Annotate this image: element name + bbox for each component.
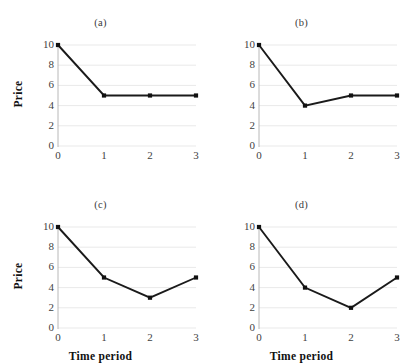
x-tick-label: 0 bbox=[46, 150, 70, 161]
data-point-marker bbox=[102, 93, 106, 97]
chart-svg bbox=[58, 45, 196, 146]
x-tick-label: 2 bbox=[339, 332, 363, 343]
data-point-marker bbox=[148, 93, 152, 97]
panel-title-d: (d) bbox=[201, 199, 402, 210]
plot-area-d bbox=[259, 227, 397, 328]
y-tick-label: 8 bbox=[32, 59, 54, 70]
data-point-marker bbox=[303, 286, 307, 290]
data-series-line bbox=[58, 45, 196, 96]
plot-area-a bbox=[58, 45, 196, 146]
data-series-line bbox=[58, 227, 196, 298]
y-tick-label: 2 bbox=[233, 302, 255, 313]
x-tick-label: 0 bbox=[46, 332, 70, 343]
chart-svg bbox=[259, 45, 397, 146]
y-axis-ticks-c: 0246810 bbox=[28, 227, 54, 328]
chart-svg bbox=[58, 227, 196, 328]
y-axis-ticks-a: 0246810 bbox=[28, 45, 54, 146]
y-axis-label-a: Price bbox=[12, 70, 24, 118]
x-tick-label: 3 bbox=[385, 332, 402, 343]
y-axis-ticks-d: 0246810 bbox=[229, 227, 255, 328]
data-point-marker bbox=[349, 306, 353, 310]
x-tick-label: 1 bbox=[293, 150, 317, 161]
y-tick-label: 4 bbox=[32, 100, 54, 111]
y-tick-label: 2 bbox=[233, 120, 255, 131]
y-tick-label: 4 bbox=[233, 282, 255, 293]
x-axis-label-c: Time period bbox=[0, 350, 201, 362]
y-tick-label: 10 bbox=[233, 39, 255, 50]
data-point-marker bbox=[148, 296, 152, 300]
data-point-marker bbox=[395, 93, 399, 97]
x-axis-ticks-d: 0123 bbox=[259, 332, 397, 348]
x-axis-ticks-b: 0123 bbox=[259, 150, 397, 166]
plot-area-c bbox=[58, 227, 196, 328]
chart-panel-b: (b) 0246810 0123 bbox=[201, 0, 402, 182]
chart-svg bbox=[259, 227, 397, 328]
figure-panel-grid: (a) Price 0246810 0123 (b) 0246810 0123 … bbox=[0, 0, 402, 364]
data-point-marker bbox=[194, 275, 198, 279]
x-axis-ticks-a: 0123 bbox=[58, 150, 196, 166]
y-tick-label: 10 bbox=[32, 39, 54, 50]
y-tick-label: 6 bbox=[32, 261, 54, 272]
chart-panel-d: (d) 0246810 0123 Time period bbox=[201, 182, 402, 364]
y-axis-label-c: Price bbox=[12, 252, 24, 300]
y-tick-label: 8 bbox=[233, 241, 255, 252]
x-tick-label: 1 bbox=[92, 150, 116, 161]
y-tick-label: 2 bbox=[32, 120, 54, 131]
x-axis-label-d: Time period bbox=[201, 350, 402, 362]
data-series-line bbox=[259, 45, 397, 106]
data-point-marker bbox=[303, 104, 307, 108]
data-point-marker bbox=[349, 93, 353, 97]
x-tick-label: 1 bbox=[92, 332, 116, 343]
plot-area-b bbox=[259, 45, 397, 146]
data-point-marker bbox=[257, 225, 261, 229]
chart-panel-c: (c) Price 0246810 0123 Time period bbox=[0, 182, 201, 364]
y-tick-label: 8 bbox=[233, 59, 255, 70]
x-axis-ticks-c: 0123 bbox=[58, 332, 196, 348]
y-tick-label: 4 bbox=[32, 282, 54, 293]
x-tick-label: 0 bbox=[247, 150, 271, 161]
y-tick-label: 8 bbox=[32, 241, 54, 252]
panel-title-b: (b) bbox=[201, 17, 402, 28]
y-tick-label: 6 bbox=[233, 79, 255, 90]
panel-title-a: (a) bbox=[0, 17, 201, 28]
data-point-marker bbox=[56, 225, 60, 229]
data-point-marker bbox=[257, 43, 261, 47]
data-point-marker bbox=[102, 275, 106, 279]
panel-title-c: (c) bbox=[0, 199, 201, 210]
y-tick-label: 2 bbox=[32, 302, 54, 313]
y-tick-label: 10 bbox=[233, 221, 255, 232]
x-tick-label: 1 bbox=[293, 332, 317, 343]
y-tick-label: 10 bbox=[32, 221, 54, 232]
y-tick-label: 6 bbox=[32, 79, 54, 90]
data-point-marker bbox=[395, 275, 399, 279]
x-tick-label: 0 bbox=[247, 332, 271, 343]
x-tick-label: 2 bbox=[138, 332, 162, 343]
data-point-marker bbox=[194, 93, 198, 97]
y-tick-label: 4 bbox=[233, 100, 255, 111]
x-tick-label: 3 bbox=[385, 150, 402, 161]
chart-panel-a: (a) Price 0246810 0123 bbox=[0, 0, 201, 182]
x-tick-label: 2 bbox=[339, 150, 363, 161]
data-point-marker bbox=[56, 43, 60, 47]
y-axis-ticks-b: 0246810 bbox=[229, 45, 255, 146]
x-tick-label: 2 bbox=[138, 150, 162, 161]
y-tick-label: 6 bbox=[233, 261, 255, 272]
